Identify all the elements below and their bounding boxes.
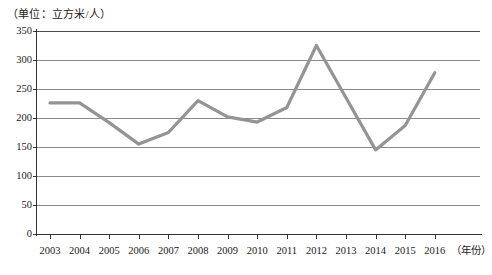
- plot-area: [36, 31, 480, 234]
- x-tick-mark-2005: [109, 235, 110, 239]
- gridline-200: [36, 118, 480, 119]
- x-tick-mark-2007: [168, 235, 169, 239]
- y-tick-label-50: 50: [2, 200, 32, 210]
- gridline-350: [36, 31, 480, 32]
- x-axis-title: （年份）: [451, 245, 491, 257]
- x-tick-label-2016: 2016: [415, 245, 455, 257]
- x-tick-mark-2003: [50, 235, 51, 239]
- y-tick-label-250: 250: [2, 84, 32, 94]
- x-tick-mark-2012: [316, 235, 317, 239]
- gridline-300: [36, 60, 480, 61]
- y-tick-label-100: 100: [2, 171, 32, 181]
- line-chart: （单位：立方米/人） 350 300 250 200 150 100 50 0 …: [0, 0, 492, 275]
- x-tick-mark-2015: [405, 235, 406, 239]
- y-axis-line: [36, 29, 37, 236]
- x-tick-mark-2009: [228, 235, 229, 239]
- gridline-100: [36, 176, 480, 177]
- x-axis-line: [36, 234, 482, 235]
- x-tick-mark-2004: [80, 235, 81, 239]
- y-tick-label-200: 200: [2, 113, 32, 123]
- x-tick-mark-2014: [376, 235, 377, 239]
- y-tick-label-150: 150: [2, 142, 32, 152]
- y-tick-label-0: 0: [2, 229, 32, 239]
- x-tick-mark-2016: [435, 235, 436, 239]
- y-axis-labels: 350 300 250 200 150 100 50 0: [0, 0, 32, 275]
- y-tick-label-300: 300: [2, 55, 32, 65]
- x-tick-mark-2010: [257, 235, 258, 239]
- gridline-250: [36, 89, 480, 90]
- x-tick-mark-2013: [346, 235, 347, 239]
- x-tick-mark-2008: [198, 235, 199, 239]
- x-tick-mark-2011: [287, 235, 288, 239]
- gridline-50: [36, 205, 480, 206]
- x-tick-mark-2006: [139, 235, 140, 239]
- y-tick-label-350: 350: [2, 26, 32, 36]
- gridline-150: [36, 147, 480, 148]
